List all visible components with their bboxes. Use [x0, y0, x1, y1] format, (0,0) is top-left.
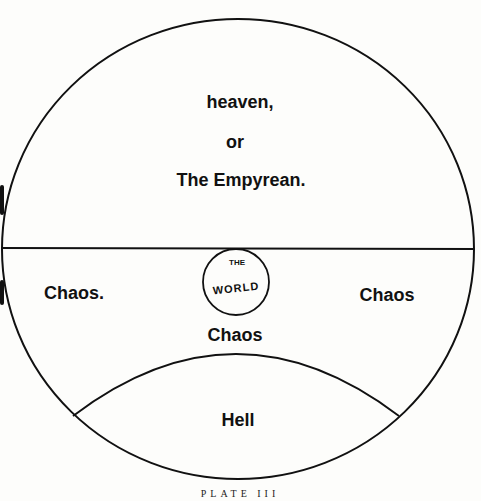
chaos-right-label: Chaos — [359, 285, 414, 306]
chaos-center-label: Chaos — [207, 325, 262, 346]
heaven-label-line2: or — [226, 132, 244, 153]
chaos-left-label: Chaos. — [44, 283, 104, 304]
hell-label: Hell — [221, 410, 254, 431]
world-label-the: THE — [229, 258, 245, 267]
plate-caption: PLATE III — [201, 488, 280, 499]
heaven-label-line3: The Empyrean. — [176, 170, 305, 191]
binding-shadow-bottom — [0, 280, 4, 305]
binding-shadow-top — [0, 185, 4, 215]
heaven-label-line1: heaven, — [206, 92, 273, 113]
hell-boundary-arc — [73, 354, 399, 416]
